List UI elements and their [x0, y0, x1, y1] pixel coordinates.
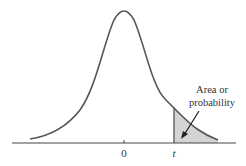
- axis-label-zero: 0: [121, 147, 127, 159]
- annotation-line-2: probability: [189, 97, 236, 108]
- annotation-line-1: Area or: [196, 84, 228, 95]
- axis-label-t: t: [172, 147, 176, 159]
- density-curve: [30, 11, 218, 140]
- distribution-diagram: 0 t Area or probability: [0, 0, 246, 166]
